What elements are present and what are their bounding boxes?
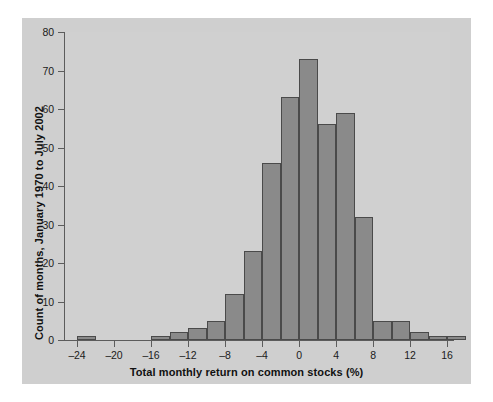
y-axis-tick [58, 71, 64, 72]
y-axis-title: Count of months, January 1970 to July 20… [33, 106, 45, 340]
x-axis-tick [188, 341, 189, 347]
x-axis-tick [447, 341, 448, 347]
y-axis-tick [58, 340, 64, 341]
x-axis-tick-label: 12 [395, 349, 425, 361]
histogram-bar [447, 336, 466, 340]
y-axis-tick [58, 109, 64, 110]
x-axis-tick [225, 341, 226, 347]
x-axis-tick-label: –20 [99, 349, 129, 361]
x-axis-tick [151, 341, 152, 347]
x-axis-tick [410, 341, 411, 347]
y-axis-tick [58, 32, 64, 33]
y-axis-tick [58, 186, 64, 187]
histogram-bar [429, 336, 448, 340]
histogram-bar [299, 59, 318, 340]
y-axis-tick [58, 263, 64, 264]
y-axis-tick [58, 148, 64, 149]
x-axis-tick [299, 341, 300, 347]
x-axis-tick [77, 341, 78, 347]
histogram-bar [244, 251, 263, 340]
histogram-bar [336, 113, 355, 340]
histogram-bar [262, 163, 281, 340]
histogram-bar [410, 332, 429, 340]
y-axis-tick [58, 225, 64, 226]
histogram-bar [392, 321, 411, 340]
x-axis-tick-label: –8 [210, 349, 240, 361]
x-axis-tick [262, 341, 263, 347]
histogram-bar [373, 321, 392, 340]
histogram-bar [151, 336, 170, 340]
histogram-bar [170, 332, 189, 340]
x-axis-tick-label: 0 [284, 349, 314, 361]
x-axis-title: Total monthly return on common stocks (%… [22, 366, 471, 378]
y-axis-tick-label: 70 [30, 65, 54, 77]
x-axis-tick [114, 341, 115, 347]
y-axis-tick [58, 302, 64, 303]
x-axis-tick [336, 341, 337, 347]
y-axis-line [64, 32, 65, 341]
x-axis-tick-label: –24 [62, 349, 92, 361]
x-axis-tick-label: –16 [136, 349, 166, 361]
y-axis-tick-label: 80 [30, 26, 54, 38]
histogram-bar [281, 97, 300, 340]
x-axis-tick-label: 16 [432, 349, 462, 361]
x-axis-line [64, 340, 454, 341]
x-axis-tick [373, 341, 374, 347]
x-axis-tick-label: 4 [321, 349, 351, 361]
histogram-bar [207, 321, 226, 340]
histogram-bar [225, 294, 244, 340]
x-axis-tick-label: –12 [173, 349, 203, 361]
x-axis-tick-label: 8 [358, 349, 388, 361]
histogram-figure: 01020304050607080 –24–20–16–12–8–4048121… [22, 18, 471, 384]
histogram-bar [318, 124, 337, 340]
histogram-bar [188, 328, 207, 340]
x-axis-tick-label: –4 [247, 349, 277, 361]
histogram-bar [355, 217, 374, 340]
histogram-bar [77, 336, 96, 340]
